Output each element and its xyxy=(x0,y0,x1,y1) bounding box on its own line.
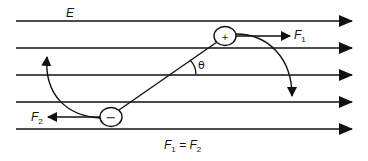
force-label-f1: F1 xyxy=(294,28,306,44)
angle-label: θ xyxy=(198,59,205,72)
rotation-arrow-positive xyxy=(236,34,292,96)
dipole-diagram: E θ F1 F2 + − F1 = F2 xyxy=(0,0,368,161)
force-equation: F1 = F2 xyxy=(164,138,202,154)
force-label-f2: F2 xyxy=(31,110,43,126)
positive-charge-symbol: + xyxy=(221,32,229,42)
field-label: E xyxy=(66,6,75,20)
angle-arc xyxy=(190,60,196,75)
rotation-arrow-negative xyxy=(47,57,100,118)
dipole-rod xyxy=(119,42,217,110)
negative-charge: − xyxy=(100,108,122,127)
negative-charge-symbol: − xyxy=(106,110,117,125)
positive-charge: + xyxy=(214,27,236,46)
